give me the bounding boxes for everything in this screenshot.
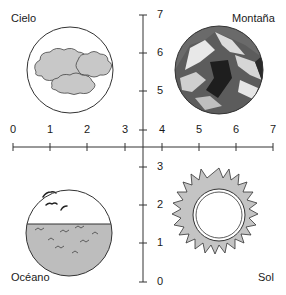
ocean-icon <box>26 190 112 284</box>
label-oceano: Océano <box>11 271 50 283</box>
x-tick-label: 7 <box>267 123 279 135</box>
label-montana: Montaña <box>232 12 275 24</box>
diagram-canvas <box>0 0 286 295</box>
x-tick-label: 6 <box>230 123 242 135</box>
y-axis <box>139 15 147 282</box>
y-tick-label: 3 <box>154 160 166 172</box>
x-tick-label: 2 <box>81 123 93 135</box>
x-tick-label: 4 <box>156 123 168 135</box>
x-tick-label: 0 <box>7 123 19 135</box>
label-sol: Sol <box>258 271 274 283</box>
x-tick-label: 3 <box>119 123 131 135</box>
y-tick-label: 6 <box>154 46 166 58</box>
y-tick-label: 7 <box>154 8 166 20</box>
clouds-icon <box>27 27 113 113</box>
x-tick-label: 5 <box>193 123 205 135</box>
x-tick-label: 1 <box>44 123 56 135</box>
y-tick-label: 0 <box>154 275 166 287</box>
sun-icon <box>172 168 258 254</box>
mountain-icon <box>175 26 263 114</box>
y-tick-label: 2 <box>154 198 166 210</box>
y-tick-label: 1 <box>154 236 166 248</box>
y-tick-label: 5 <box>154 84 166 96</box>
label-cielo: Cielo <box>11 12 36 24</box>
